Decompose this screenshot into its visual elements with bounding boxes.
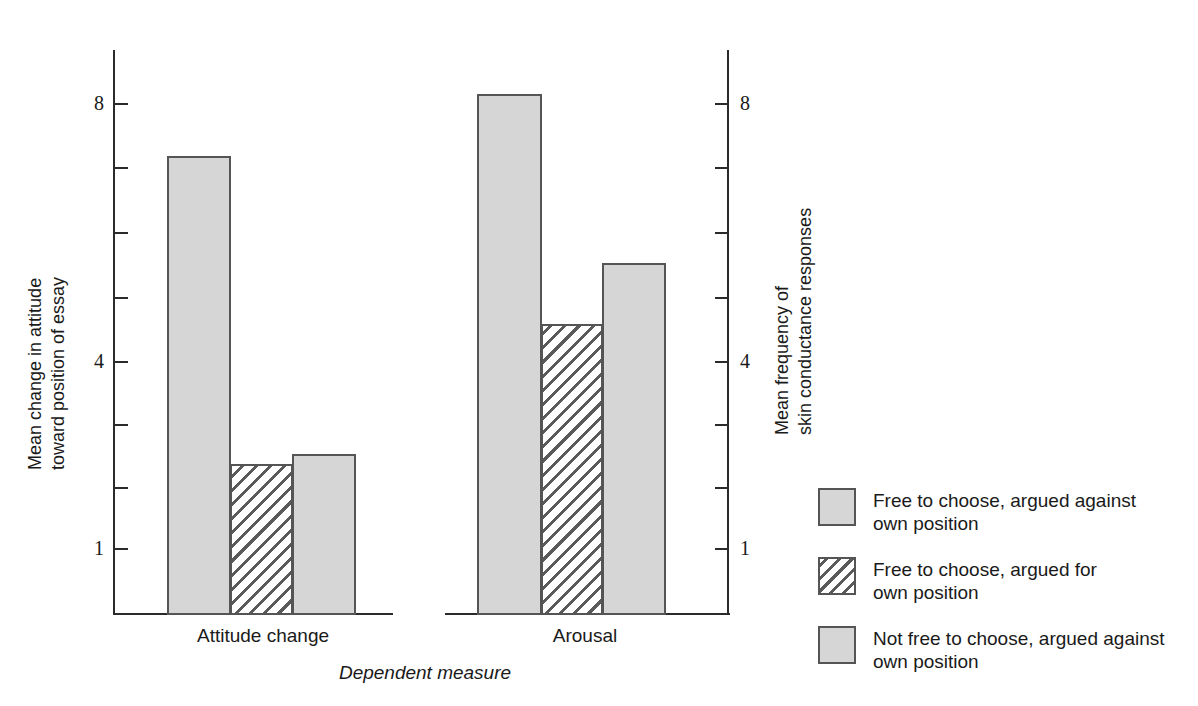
left-axis-tick-3 [115,424,128,426]
right-axis-label-4: 4 [740,351,766,371]
bar-arousal-notfree-against [602,263,666,615]
x-category-label-arousal: Arousal [495,625,675,647]
left-axis-tick-1 [115,548,128,550]
x-axis-title: Dependent measure [260,662,590,684]
left-axis-label-4: 4 [78,351,104,371]
legend-item-free-for: Free to choose, argued for own position [818,557,1190,604]
right-axis-title-line1: Mean frequency of [771,286,794,435]
left-axis-tick-8 [115,103,128,105]
left-axis-label-8: 8 [78,93,104,113]
right-axis-label-8: 8 [740,93,766,113]
legend-label-notfree-against: Not free to choose, argued against own p… [873,626,1165,673]
legend-label-free-for: Free to choose, argued for own position [873,557,1097,604]
legend-swatch-hatch-icon [818,557,856,595]
bar-arousal-free-for [541,324,603,615]
legend-label-free-for-line2: own position [873,581,1097,604]
bar-arousal-free-against [477,94,542,615]
right-axis-tick-4 [715,361,728,363]
right-axis-label-1: 1 [740,538,766,558]
legend-swatch-solid2-icon [818,626,856,664]
legend-label-free-against: Free to choose, argued against own posit… [873,488,1136,535]
legend-item-notfree-against: Not free to choose, argued against own p… [818,626,1190,673]
legend-label-free-for-line1: Free to choose, argued for [873,559,1097,580]
left-axis-title-line1: Mean change in attitude [24,278,47,470]
left-y-axis-line [113,50,115,615]
right-axis-tick-1 [715,548,728,550]
right-axis-tick-5 [715,297,728,299]
left-axis-title-line2: toward position of essay [47,277,70,470]
bar-attitude-notfree-against [292,454,356,615]
right-y-axis-line [727,50,729,615]
legend-label-free-against-line2: own position [873,512,1136,535]
left-axis-label-1: 1 [78,538,104,558]
right-axis-tick-7 [715,167,728,169]
left-axis-tick-6 [115,232,128,234]
legend-label-notfree-against-line2: own position [873,650,1165,673]
bar-attitude-free-for [230,464,293,615]
chart-legend: Free to choose, argued against own posit… [818,488,1190,695]
bar-attitude-free-against [167,156,231,615]
legend-item-free-against: Free to choose, argued against own posit… [818,488,1190,535]
left-axis-tick-7 [115,167,128,169]
right-axis-tick-3 [715,424,728,426]
left-axis-tick-2 [115,487,128,489]
legend-label-free-against-line1: Free to choose, argued against [873,490,1136,511]
chart-canvas: 8 4 1 Mean change in attitude toward pos… [0,0,1198,706]
right-axis-tick-8 [715,103,728,105]
x-category-label-attitude-change: Attitude change [153,625,373,647]
legend-label-notfree-against-line1: Not free to choose, argued against [873,628,1165,649]
right-axis-tick-6 [715,232,728,234]
left-axis-tick-5 [115,297,128,299]
right-axis-tick-2 [715,487,728,489]
left-axis-tick-4 [115,361,128,363]
right-axis-title-line2: skin conductance responses [794,208,817,435]
legend-swatch-solid-icon [818,488,856,526]
